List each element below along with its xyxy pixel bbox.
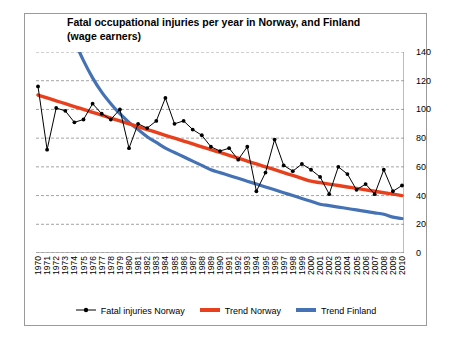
data-point bbox=[245, 145, 249, 149]
x-axis-tick-label: 1976 bbox=[89, 256, 98, 275]
data-point bbox=[173, 122, 177, 126]
data-point bbox=[191, 128, 195, 132]
data-point bbox=[164, 96, 168, 100]
data-point bbox=[318, 175, 322, 179]
data-point bbox=[209, 145, 213, 149]
y-axis-tick-label: 0 bbox=[416, 248, 421, 258]
data-point bbox=[100, 112, 104, 116]
x-axis-tick-label: 1984 bbox=[161, 256, 170, 275]
series-trend-finland bbox=[38, 52, 402, 219]
data-point bbox=[73, 120, 77, 124]
x-axis-tick-label: 1995 bbox=[262, 256, 271, 275]
data-point bbox=[309, 168, 313, 172]
data-point bbox=[227, 146, 231, 150]
x-axis-tick-label: 1994 bbox=[252, 256, 261, 275]
y-axis-labels: 020406080100120140 bbox=[406, 52, 446, 253]
data-point bbox=[336, 165, 340, 169]
x-axis-tick-label: 1985 bbox=[171, 256, 180, 275]
x-axis-tick-label: 2005 bbox=[353, 256, 362, 275]
legend-swatch-thick-line bbox=[295, 305, 317, 317]
x-axis-tick-label: 1997 bbox=[280, 256, 289, 275]
data-point bbox=[364, 182, 368, 186]
x-axis-tick-label: 2006 bbox=[362, 256, 371, 275]
data-point bbox=[200, 133, 204, 137]
legend-swatch-thick-line bbox=[199, 305, 221, 317]
chart-legend: Fatal injuries NorwayTrend NorwayTrend F… bbox=[24, 305, 427, 317]
data-point bbox=[145, 126, 149, 130]
data-point bbox=[355, 188, 359, 192]
data-point bbox=[300, 162, 304, 166]
x-axis-tick-label: 2004 bbox=[343, 256, 352, 275]
legend-label: Trend Finland bbox=[321, 306, 376, 316]
y-axis-tick-label: 140 bbox=[416, 47, 431, 57]
y-axis-tick-label: 120 bbox=[416, 76, 431, 86]
data-point bbox=[218, 149, 222, 153]
y-axis-tick-label: 40 bbox=[416, 191, 426, 201]
plot-area bbox=[36, 52, 404, 253]
data-point bbox=[382, 168, 386, 172]
data-point bbox=[154, 119, 158, 123]
plot-svg bbox=[36, 52, 404, 253]
data-point bbox=[63, 109, 67, 113]
y-axis-tick-label: 80 bbox=[416, 133, 426, 143]
data-point bbox=[182, 119, 186, 123]
data-point bbox=[91, 102, 95, 106]
x-axis-labels: 1970197119721973197419751976197719781979… bbox=[36, 256, 404, 304]
chart-title: Fatal occupational injuries per year in … bbox=[67, 15, 387, 43]
series-trend-norway bbox=[38, 95, 402, 196]
series-path bbox=[38, 52, 402, 219]
legend-item[interactable]: Fatal injuries Norway bbox=[75, 305, 185, 317]
y-axis-tick-label: 20 bbox=[416, 219, 426, 229]
data-point bbox=[54, 106, 58, 110]
x-axis-tick-label: 1975 bbox=[80, 256, 89, 275]
data-point bbox=[346, 172, 350, 176]
data-point bbox=[391, 189, 395, 193]
y-axis-tick-label: 60 bbox=[416, 162, 426, 172]
x-axis-tick-label: 2007 bbox=[371, 256, 380, 275]
data-point bbox=[255, 189, 259, 193]
data-point bbox=[264, 171, 268, 175]
data-point bbox=[291, 169, 295, 173]
data-point bbox=[327, 192, 331, 196]
data-point bbox=[373, 192, 377, 196]
data-point bbox=[118, 108, 122, 112]
data-point-markers bbox=[36, 85, 404, 196]
series-path bbox=[38, 95, 402, 196]
data-point bbox=[127, 146, 131, 150]
x-axis-tick-label: 1996 bbox=[271, 256, 280, 275]
legend-label: Trend Norway bbox=[225, 306, 281, 316]
legend-item[interactable]: Trend Norway bbox=[199, 305, 281, 317]
x-axis-tick-label: 1974 bbox=[70, 256, 79, 275]
data-point bbox=[136, 122, 140, 126]
data-point bbox=[273, 138, 277, 142]
data-point bbox=[36, 85, 40, 89]
figure-container: Fatal occupational injuries per year in … bbox=[0, 0, 451, 348]
data-point bbox=[282, 164, 286, 168]
legend-item[interactable]: Trend Finland bbox=[295, 305, 376, 317]
data-point bbox=[400, 184, 404, 188]
data-point bbox=[109, 118, 113, 122]
data-point bbox=[45, 148, 49, 152]
x-axis-tick-label: 1977 bbox=[98, 256, 107, 275]
data-point bbox=[236, 158, 240, 162]
x-axis-tick-label: 2010 bbox=[398, 256, 407, 275]
legend-swatch-line-marker bbox=[75, 305, 97, 317]
x-axis-tick-label: 1987 bbox=[189, 256, 198, 275]
y-axis-tick-label: 100 bbox=[416, 104, 431, 114]
data-point bbox=[82, 118, 86, 122]
x-axis-tick-label: 1986 bbox=[180, 256, 189, 275]
legend-label: Fatal injuries Norway bbox=[101, 306, 185, 316]
